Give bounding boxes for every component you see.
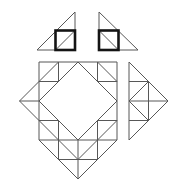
geometry-canvas (0, 0, 175, 187)
detached-right-triangle (129, 62, 168, 140)
puzzle-figure (0, 0, 175, 187)
main-diamond-lattice (20, 62, 118, 179)
